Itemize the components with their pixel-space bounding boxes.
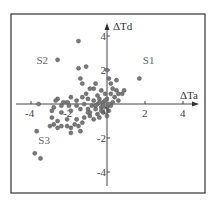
data-point	[92, 117, 96, 121]
data-point	[88, 87, 92, 91]
region-label-s1: S1	[143, 54, 155, 66]
x-tick-label: 4	[180, 107, 186, 119]
data-point	[76, 66, 80, 70]
data-point	[109, 82, 113, 86]
data-point	[54, 99, 58, 103]
region-label-s3: S3	[38, 134, 50, 146]
y-tick-label: -2	[97, 132, 106, 144]
data-point	[109, 92, 113, 96]
data-point	[50, 109, 54, 113]
data-point	[97, 116, 101, 120]
x-axis-title: ΔTa	[180, 89, 198, 101]
data-point	[65, 124, 69, 128]
data-point	[69, 126, 73, 130]
data-point	[73, 122, 77, 126]
data-point	[103, 92, 107, 96]
data-point	[75, 104, 79, 108]
data-point	[92, 87, 96, 91]
data-point	[90, 104, 94, 108]
data-point	[75, 99, 79, 103]
data-point	[59, 124, 63, 128]
data-point	[37, 102, 41, 106]
data-point	[114, 78, 118, 82]
data-point	[120, 92, 124, 96]
data-point	[94, 104, 98, 108]
x-tick-label: 2	[142, 107, 148, 119]
origin-label: 0	[103, 104, 109, 116]
data-point	[50, 116, 54, 120]
y-tick-label: -4	[97, 166, 107, 178]
data-point	[111, 87, 115, 91]
data-point	[35, 129, 39, 133]
data-point	[86, 110, 90, 114]
data-point	[84, 65, 88, 69]
data-point	[69, 109, 73, 113]
data-point	[56, 126, 60, 130]
data-point	[94, 82, 98, 86]
region-label-s2: S2	[36, 54, 48, 66]
data-point	[33, 151, 37, 155]
data-point	[78, 129, 82, 133]
data-point	[105, 68, 109, 72]
data-point	[56, 58, 60, 62]
x-tick-label: -4	[25, 107, 35, 119]
data-point	[137, 76, 141, 80]
data-point	[82, 116, 86, 120]
data-point	[103, 99, 107, 103]
data-point	[69, 131, 73, 135]
data-point	[59, 104, 63, 108]
data-point	[84, 92, 88, 96]
data-point	[86, 97, 90, 101]
data-point	[97, 100, 101, 104]
data-point	[107, 76, 111, 80]
data-point	[78, 76, 82, 80]
data-point	[92, 99, 96, 103]
data-point	[116, 92, 120, 96]
data-point	[59, 110, 63, 114]
data-point	[67, 104, 71, 108]
data-point	[52, 122, 56, 126]
data-point	[99, 88, 103, 92]
data-point	[38, 156, 42, 160]
data-point	[78, 107, 82, 111]
data-point	[82, 102, 86, 106]
data-point	[80, 95, 84, 99]
data-point	[56, 119, 60, 123]
data-point	[80, 121, 84, 125]
y-axis-title: ΔTd	[113, 20, 133, 32]
data-point	[76, 39, 80, 43]
y-tick-label: 4	[101, 30, 107, 42]
data-point	[48, 124, 52, 128]
data-point	[113, 95, 117, 99]
data-point	[80, 82, 84, 86]
data-point	[76, 124, 80, 128]
data-point	[65, 117, 69, 121]
data-point	[116, 99, 120, 103]
data-point	[75, 117, 79, 121]
data-point	[69, 95, 73, 99]
scatter-chart: -4-22442-2-4 ΔTa ΔTd 0 S1S2S3	[0, 0, 215, 205]
